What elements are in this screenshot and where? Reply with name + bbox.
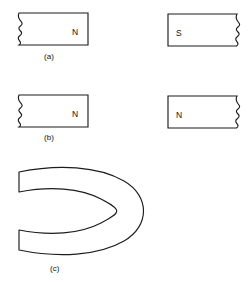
pole-label-a-right: S [176, 29, 182, 38]
panel-label-b: (b) [44, 134, 54, 142]
magnet-figure: N S N N (a) (b) (c) [0, 0, 252, 282]
panel-label-c: (c) [50, 265, 60, 273]
panel-label-a: (a) [44, 53, 54, 61]
pole-label-b-right: N [176, 111, 182, 120]
figure-canvas [0, 0, 252, 282]
pole-label-a-left: N [72, 28, 78, 37]
horseshoe-magnet-outline [19, 167, 144, 254]
pole-label-b-left: N [72, 110, 78, 119]
